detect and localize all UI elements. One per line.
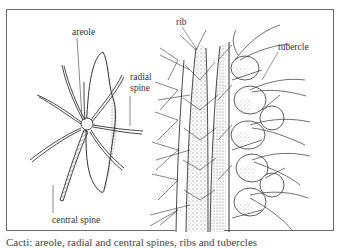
label-tubercle: tubercle xyxy=(278,42,309,52)
cactus-stem-drawing xyxy=(150,25,310,232)
label-radial-spine-line2: spine xyxy=(130,83,150,93)
label-rib: rib xyxy=(176,17,187,27)
areole-detail-drawing xyxy=(30,38,143,213)
figure-caption: Cacti: areole, radial and central spines… xyxy=(6,236,257,248)
label-central-spine: central spine xyxy=(52,215,100,225)
label-areole: areole xyxy=(72,27,95,37)
label-radial-spine-line1: radial xyxy=(130,72,152,82)
